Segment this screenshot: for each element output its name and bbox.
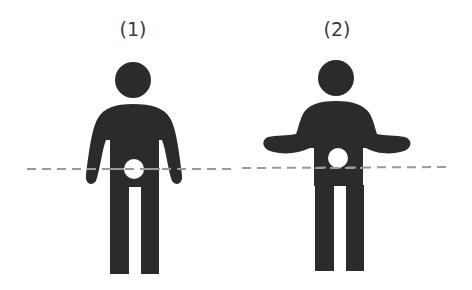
head-icon [115, 62, 151, 98]
right-leg-shape [346, 185, 364, 271]
torso-arms-shape [263, 101, 410, 186]
diagram-canvas [0, 0, 472, 290]
hip-marker-2-icon [328, 148, 348, 168]
right-leg-shape [141, 186, 159, 274]
left-leg-shape [110, 186, 129, 274]
left-leg-shape [315, 185, 334, 271]
head-icon [318, 60, 354, 96]
